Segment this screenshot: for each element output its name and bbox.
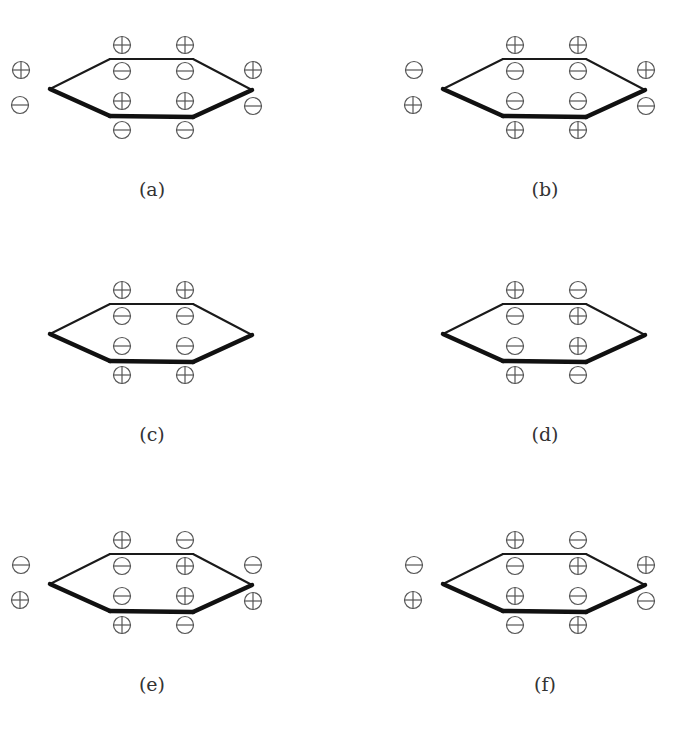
plus-sign-icon [570, 122, 587, 139]
minus-sign-icon [406, 557, 423, 574]
minus-sign-icon [570, 63, 587, 80]
minus-sign-icon [507, 63, 524, 80]
minus-sign-icon [245, 98, 262, 115]
hexagon-diagram-e [0, 495, 320, 655]
minus-sign-icon [177, 308, 194, 325]
plus-sign-icon [507, 282, 524, 299]
panel-label-a: (a) [139, 178, 165, 200]
plus-sign-icon [114, 93, 131, 110]
hexagon-diagram-b [393, 0, 687, 160]
minus-sign-icon [177, 532, 194, 549]
panel-label-e: (e) [139, 673, 165, 695]
hexagon-diagram-d [393, 245, 687, 405]
minus-sign-icon [507, 558, 524, 575]
panel-label-b: (b) [532, 178, 559, 200]
plus-sign-icon [114, 367, 131, 384]
plus-sign-icon [570, 617, 587, 634]
minus-sign-icon [638, 593, 655, 610]
plus-sign-icon [570, 308, 587, 325]
panel-f: (f) [393, 495, 687, 705]
minus-sign-icon [114, 63, 131, 80]
plus-sign-icon [245, 62, 262, 79]
plus-sign-icon [507, 588, 524, 605]
panel-e: (e) [0, 495, 320, 705]
minus-sign-icon [12, 97, 29, 114]
plus-sign-icon [570, 338, 587, 355]
plus-sign-icon [114, 617, 131, 634]
figure: (a) (b) (c) (d) (e) (f) [0, 0, 687, 738]
minus-sign-icon [507, 93, 524, 110]
panel-label-c: (c) [139, 423, 164, 445]
minus-sign-icon [114, 558, 131, 575]
plus-sign-icon [177, 588, 194, 605]
minus-sign-icon [570, 367, 587, 384]
plus-sign-icon [177, 282, 194, 299]
minus-sign-icon [114, 588, 131, 605]
minus-sign-icon [114, 338, 131, 355]
minus-sign-icon [507, 308, 524, 325]
plus-sign-icon [245, 593, 262, 610]
minus-sign-icon [13, 557, 30, 574]
panel-b: (b) [393, 0, 687, 210]
minus-sign-icon [570, 588, 587, 605]
hexagon-diagram-f [393, 495, 687, 655]
panel-d: (d) [393, 245, 687, 455]
minus-sign-icon [177, 63, 194, 80]
plus-sign-icon [507, 37, 524, 54]
plus-sign-icon [570, 37, 587, 54]
plus-sign-icon [638, 557, 655, 574]
minus-sign-icon [638, 98, 655, 115]
plus-sign-icon [177, 558, 194, 575]
plus-sign-icon [114, 282, 131, 299]
panel-label-d: (d) [532, 423, 559, 445]
minus-sign-icon [507, 338, 524, 355]
panel-a: (a) [0, 0, 320, 210]
plus-sign-icon [507, 122, 524, 139]
hexagon-diagram-c [0, 245, 320, 405]
plus-sign-icon [405, 592, 422, 609]
plus-sign-icon [114, 532, 131, 549]
minus-sign-icon [570, 282, 587, 299]
plus-sign-icon [638, 62, 655, 79]
plus-sign-icon [507, 367, 524, 384]
plus-sign-icon [12, 592, 29, 609]
minus-sign-icon [245, 557, 262, 574]
panel-label-f: (f) [534, 673, 556, 695]
minus-sign-icon [114, 122, 131, 139]
plus-sign-icon [507, 532, 524, 549]
minus-sign-icon [114, 308, 131, 325]
minus-sign-icon [507, 617, 524, 634]
panel-c: (c) [0, 245, 320, 455]
minus-sign-icon [177, 122, 194, 139]
plus-sign-icon [177, 37, 194, 54]
minus-sign-icon [570, 93, 587, 110]
plus-sign-icon [570, 558, 587, 575]
plus-sign-icon [177, 367, 194, 384]
minus-sign-icon [406, 62, 423, 79]
plus-sign-icon [114, 37, 131, 54]
plus-sign-icon [405, 97, 422, 114]
minus-sign-icon [177, 338, 194, 355]
plus-sign-icon [177, 93, 194, 110]
plus-sign-icon [13, 62, 30, 79]
minus-sign-icon [570, 532, 587, 549]
minus-sign-icon [177, 617, 194, 634]
hexagon-diagram-a [0, 0, 320, 160]
